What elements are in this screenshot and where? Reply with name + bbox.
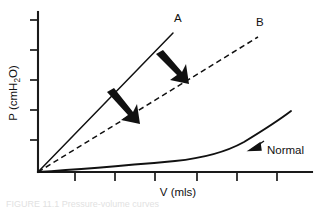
svg-text:P (cmH2O): P (cmH2O) <box>7 65 22 121</box>
series-label-b: B <box>256 16 264 28</box>
y-axis-ticks <box>30 20 38 140</box>
x-axis-title: V (mls) <box>160 186 197 198</box>
series-line-a <box>38 33 173 172</box>
shift-arrow-lower-icon <box>107 88 140 124</box>
normal-pointer-arrow-icon <box>249 141 264 151</box>
x-axis-ticks <box>75 172 277 181</box>
series-label-normal: Normal <box>267 144 304 156</box>
shift-arrow-upper-icon <box>156 50 189 84</box>
series-label-a: A <box>174 12 182 24</box>
series-line-b <box>38 37 258 172</box>
y-axis-title-post: O) <box>7 65 19 78</box>
pressure-volume-chart: A B Normal V (mls) P (cmH2O) <box>0 0 319 212</box>
y-axis-title: P (cmH2O) <box>7 65 22 121</box>
figure-caption-fragment: FIGURE 11.1 Pressure-volume curves <box>6 200 176 209</box>
figure-page: A B Normal V (mls) P (cmH2O) FIGURE 11.1… <box>0 0 319 212</box>
series-line-normal <box>38 111 291 172</box>
y-axis-title-pre: P (cmH <box>7 83 19 121</box>
